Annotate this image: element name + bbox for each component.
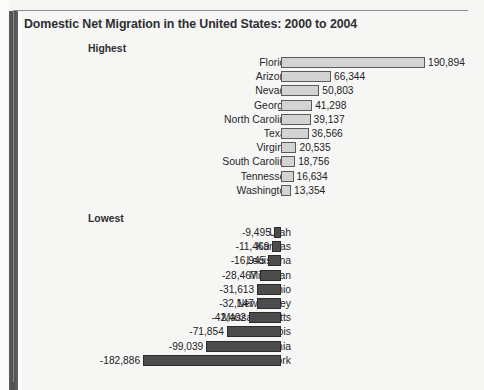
chart-row: Utah-9,495 [0, 226, 484, 240]
bar-negative [206, 341, 281, 352]
bar-value-label: 66,344 [334, 70, 365, 84]
bar-positive [281, 156, 295, 167]
chart-row: Michigan-28,467 [0, 269, 484, 283]
bar-value-label: 41,298 [315, 99, 346, 113]
chart-row: Tennessee16,634 [0, 170, 484, 184]
bar-negative [143, 355, 281, 366]
state-label: Texas [20, 127, 291, 141]
bar-value-label: 39,137 [314, 113, 345, 127]
bar-positive [281, 114, 311, 125]
chart-row: Georgia41,298 [0, 99, 484, 113]
bar-value-label: 13,354 [294, 184, 325, 198]
bar-negative [268, 255, 281, 266]
state-label: Florida [20, 56, 291, 70]
bar-value-label: 18,756 [298, 155, 329, 169]
chart-row: Texas36,566 [0, 127, 484, 141]
chart-row: New York-182,886 [0, 354, 484, 368]
chart-row: Illinois-71,854 [0, 325, 484, 339]
chart-row: Louisiana-16,945 [0, 254, 484, 268]
bar-chart-plot-area: Florida190,894Arizona66,344Nevada50,803G… [0, 0, 484, 390]
bar-value-label: -99,039 [169, 340, 204, 354]
bar-positive [281, 100, 312, 111]
chart-row: South Carolina18,756 [0, 155, 484, 169]
chart-row: Arizona66,344 [0, 70, 484, 84]
state-label: South Carolina [20, 155, 291, 169]
bar-value-label: -28,467 [222, 269, 257, 283]
chart-row: Kansas-11,469 [0, 240, 484, 254]
state-label: Arizona [20, 70, 291, 84]
bar-negative [274, 227, 281, 238]
bar-value-label: 190,894 [428, 56, 465, 70]
state-label: Virginia [20, 141, 291, 155]
state-label: Tennessee [20, 170, 291, 184]
state-label: North Carolina [20, 113, 291, 127]
bar-value-label: 36,566 [312, 127, 343, 141]
chart-row: Ohio-31,613 [0, 283, 484, 297]
chart-row: Nevada50,803 [0, 84, 484, 98]
bar-positive [281, 57, 425, 68]
bar-negative [257, 284, 281, 295]
chart-row: North Carolina39,137 [0, 113, 484, 127]
bar-value-label: -16,945 [231, 254, 266, 268]
chart-row: New Jersey-32,147 [0, 297, 484, 311]
bar-negative [249, 312, 281, 323]
bar-positive [281, 128, 309, 139]
bar-negative [260, 270, 281, 281]
bar-value-label: -71,854 [189, 325, 224, 339]
bar-value-label: -42,402 [211, 311, 246, 325]
bar-value-label: 20,535 [299, 141, 330, 155]
bar-negative [272, 241, 281, 252]
bar-positive [281, 142, 296, 153]
bar-positive [281, 85, 319, 96]
bar-value-label: -32,147 [219, 297, 254, 311]
state-label: Washington [20, 184, 291, 198]
bar-negative [227, 326, 281, 337]
bar-value-label: -11,469 [236, 240, 270, 254]
bar-value-label: 50,803 [322, 84, 353, 98]
bar-value-label: -9,495 [242, 226, 271, 240]
bar-value-label: -182,886 [100, 354, 140, 368]
chart-row: Florida190,894 [0, 56, 484, 70]
bar-negative [257, 298, 281, 309]
bar-value-label: -31,613 [220, 283, 255, 297]
chart-row: California-99,039 [0, 340, 484, 354]
bar-positive [281, 171, 294, 182]
chart-row: Massachusetts-42,402 [0, 311, 484, 325]
chart-row: Washington13,354 [0, 184, 484, 198]
bar-positive [281, 185, 291, 196]
state-label: Georgia [20, 99, 291, 113]
state-label: Nevada [20, 84, 291, 98]
bar-positive [281, 71, 331, 82]
chart-row: Virginia20,535 [0, 141, 484, 155]
bar-value-label: 16,634 [297, 170, 328, 184]
